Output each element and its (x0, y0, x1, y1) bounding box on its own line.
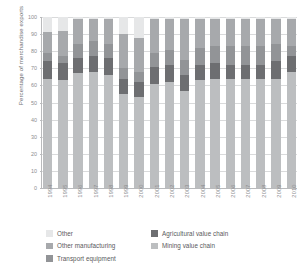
bar-segment (195, 48, 204, 65)
x-label-slot: 1998 (103, 190, 112, 222)
x-label-slot: 2007 (241, 190, 250, 222)
x-label-slot: 2009 (271, 190, 280, 222)
bar-segment (58, 80, 67, 188)
bar-segment (287, 46, 296, 56)
x-tick-label: 1994 (47, 184, 53, 197)
legend-item[interactable]: Transport equipment (46, 252, 151, 265)
legend-item[interactable]: Mining value chain (151, 240, 291, 253)
bar-segment (43, 53, 52, 62)
bar-segment (150, 53, 159, 67)
bar-segment (134, 72, 143, 82)
bar-segment (104, 19, 113, 45)
bar-segment (241, 65, 250, 79)
bar-segment (73, 19, 82, 45)
y-tick-label: 80 (15, 48, 37, 54)
bar-column (119, 17, 128, 188)
bar-column (226, 17, 235, 188)
bar-segment (210, 79, 219, 188)
stacked-bar-chart: Percentage of merchandise exports 100908… (0, 0, 302, 275)
y-tick-label: 30 (15, 134, 37, 140)
bar-segment (180, 60, 189, 75)
x-tick-label: 1995 (62, 184, 68, 197)
bar-segment (119, 34, 128, 68)
bar-column (73, 17, 82, 188)
bar-segment (58, 17, 67, 31)
y-tick-label: 60 (15, 82, 37, 88)
bar-column (180, 17, 189, 188)
x-axis-tick-labels: 1994199519961997199819992000200120022003… (41, 190, 297, 222)
y-tick-label: 40 (15, 117, 37, 123)
bar-segment (43, 17, 52, 32)
bar-segment (150, 19, 159, 53)
bar-segment (165, 82, 174, 188)
x-tick-label: 2002 (169, 184, 175, 197)
bar-column (43, 17, 52, 188)
legend-column-left: OtherOther manufacturingTransport equipm… (46, 227, 151, 265)
bar-column (134, 17, 143, 188)
bar-segment (226, 65, 235, 79)
bar-column (104, 17, 113, 188)
bar-segment (226, 19, 235, 46)
legend-swatch-icon (151, 230, 158, 237)
legend-item[interactable]: Agricultural value chain (151, 227, 291, 240)
bar-segment (195, 65, 204, 80)
bar-segment (195, 80, 204, 188)
bar-segment (287, 19, 296, 46)
x-tick-label: 1998 (108, 184, 114, 197)
x-label-slot: 2000 (134, 190, 143, 222)
x-tick-label: 2001 (154, 184, 160, 197)
bar-segment (165, 50, 174, 65)
x-label-slot: 2002 (164, 190, 173, 222)
legend-swatch-icon (46, 243, 53, 250)
bar-segment (226, 46, 235, 65)
bar-segment (271, 19, 280, 45)
x-tick-label: 1996 (77, 184, 83, 197)
x-label-slot: 1997 (88, 190, 97, 222)
bar-segment (73, 44, 82, 58)
x-tick-label: 2004 (200, 184, 206, 197)
bar-segment (104, 44, 113, 58)
legend-swatch-icon (151, 243, 158, 250)
x-tick-label: 2008 (261, 184, 267, 197)
chart-legend: OtherOther manufacturingTransport equipm… (46, 227, 296, 265)
bar-segment (150, 84, 159, 188)
legend-item[interactable]: Other manufacturing (46, 240, 151, 253)
legend-label: Agricultural value chain (162, 230, 228, 237)
legend-label: Other manufacturing (57, 242, 115, 249)
x-label-slot: 2003 (180, 190, 189, 222)
bar-segment (180, 91, 189, 188)
bar-segment (119, 17, 128, 34)
y-tick-label: 100 (15, 14, 37, 20)
legend-item[interactable]: Other (46, 227, 151, 240)
bar-column (210, 17, 219, 188)
x-tick-label: 2005 (215, 184, 221, 197)
y-tick-label: 10 (15, 168, 37, 174)
bar-column (165, 17, 174, 188)
x-tick-label: 2006 (230, 184, 236, 197)
x-label-slot: 2005 (210, 190, 219, 222)
bar-segment (256, 65, 265, 79)
legend-label: Other (57, 230, 73, 237)
bar-segment (241, 46, 250, 65)
legend-label: Mining value chain (162, 242, 215, 249)
x-label-slot: 2006 (225, 190, 234, 222)
x-tick-label: 2010 (291, 184, 297, 197)
y-tick-label: 70 (15, 65, 37, 71)
y-tick-label: 0 (15, 185, 37, 191)
bar-segment (104, 75, 113, 188)
x-label-slot: 1994 (42, 190, 51, 222)
bar-segment (58, 31, 67, 57)
bar-segment (165, 65, 174, 82)
y-tick-label: 20 (15, 151, 37, 157)
bar-segment (58, 56, 67, 63)
bar-segment (58, 63, 67, 80)
x-tick-label: 2007 (245, 184, 251, 197)
bar-segment (241, 79, 250, 188)
y-tick-label: 90 (15, 31, 37, 37)
bar-segment (150, 67, 159, 84)
bar-segment (134, 17, 143, 38)
x-tick-label: 1999 (123, 184, 129, 197)
bar-segment (256, 79, 265, 188)
bar-segment (119, 94, 128, 188)
x-label-slot: 1996 (73, 190, 82, 222)
